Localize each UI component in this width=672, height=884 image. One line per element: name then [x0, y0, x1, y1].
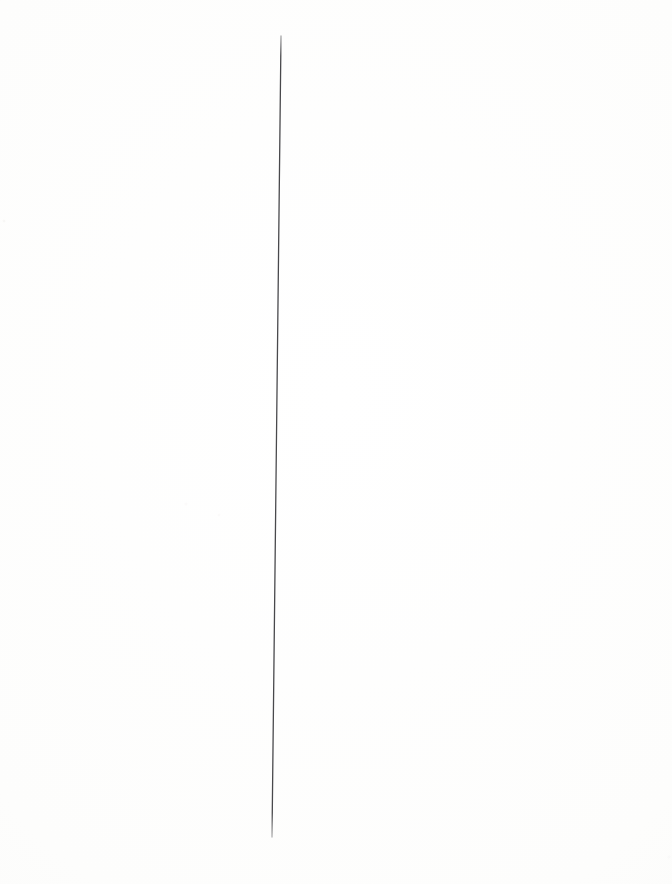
- paper-background: [0, 0, 672, 884]
- page-canvas: [0, 0, 672, 884]
- scan-noise-speckle: [0, 0, 672, 884]
- ink-layer: [0, 0, 672, 884]
- vertical-ink-line: [272, 36, 281, 837]
